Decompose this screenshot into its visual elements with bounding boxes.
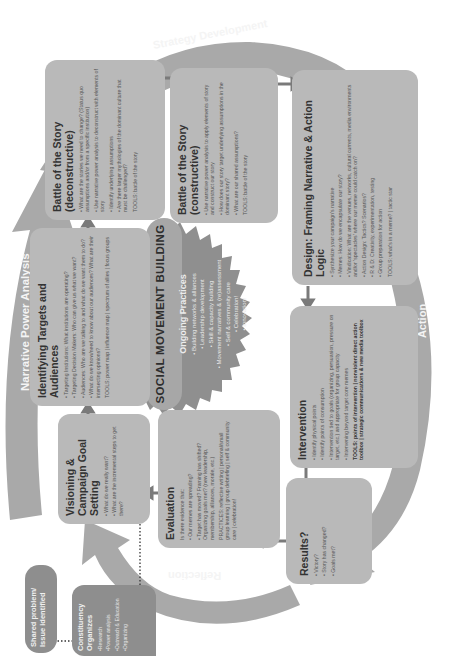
evaluation-item: Our memes are spreading? (187, 418, 193, 540)
battle-con-title: Battle of the Story (constructive) (176, 76, 200, 215)
arc-label-reflection: Reflection (168, 570, 221, 582)
design-item: Vindication: What are the venues, networ… (346, 78, 359, 277)
results-title: Results? (298, 486, 310, 576)
center-item: Movement narratives & (re)assessment (216, 218, 222, 410)
center-social-movement-building: SOCIAL MOVEMENT BUILDING Ongoing Practic… (146, 218, 256, 410)
box-visioning: Visioning & Campaign Goal Setting What d… (58, 414, 150, 524)
intervention-item: Identify physical points (311, 314, 317, 460)
intervention-title: Intervention (296, 314, 308, 460)
constituency-item: •Power analysis (105, 590, 111, 651)
visioning-title: Visioning & Campaign Goal Setting (64, 422, 100, 516)
battle-con-item: How does our story target underlying ass… (218, 76, 231, 215)
evaluation-tools: PRACTICES: reflective writing | personal… (218, 418, 237, 540)
constituency-item: •Outreach & Education (114, 590, 120, 651)
identifying-item: Audiences: Who are we talking to and wha… (80, 236, 86, 398)
box-battle-constructive: Battle of the Story (constructive) Use n… (170, 68, 278, 223)
design-item: Group preparation for action (377, 78, 383, 277)
box-evaluation: Evaluation Is there evidence that: Our m… (158, 410, 280, 548)
center-subtitle: Ongoing Practices (178, 218, 188, 410)
intervention-item: Intervening beyond target core memes (343, 314, 349, 460)
box-constituency-organizes: Constituency Organizes •Research •Power … (72, 585, 156, 656)
center-item: Skill & capacity building (208, 218, 214, 410)
evaluation-intro: Is there evidence that: (179, 418, 185, 540)
identifying-tools: TOOLS: power map | influence map | spect… (104, 236, 110, 398)
design-title: Design: Framing Narrative & Action Logic (302, 78, 326, 277)
identifying-item: Targeting Institutions: What institution… (63, 236, 69, 398)
center-item: Leadership development (199, 218, 205, 410)
battle-decon-item: Use narrative power analysis to deconstr… (93, 68, 106, 212)
intervention-item: Identify points of consumption (319, 314, 325, 460)
design-item: Synthesize your campaign's narrative (329, 78, 335, 277)
center-item: Celebration! (233, 218, 239, 410)
visioning-item: What do we really want? (103, 422, 109, 516)
identifying-item: What do we know/need to know about our a… (88, 236, 101, 398)
battle-decon-tools: TOOLS: battle of the story (132, 68, 138, 212)
center-item: Building networks & alliances (191, 218, 197, 410)
box-design-framing: Design: Framing Narrative & Action Logic… (292, 70, 418, 285)
center-title: SOCIAL MOVEMENT BUILDING (154, 218, 166, 410)
center-item: Innovation! (241, 218, 247, 410)
design-item: Action Design: Tactics? Scenarios? (361, 78, 367, 277)
design-tools: TOOLS: what's in a meme? | tactic star (387, 78, 393, 277)
intervention-item: Intervention tied to goals (organizing, … (328, 314, 341, 460)
center-item: Self & community care (225, 218, 231, 410)
results-item: Victory? (313, 486, 319, 576)
evaluation-title: Evaluation (164, 418, 176, 540)
shared-problem-title: Shared problem/ Issue identified (29, 571, 47, 647)
evaluation-item: Target has moved? Framing has shifted? O… (196, 418, 215, 540)
intervention-tools: TOOLS: points of intervention | nonviole… (352, 314, 365, 460)
results-item: Goals met? (330, 486, 336, 576)
identifying-title: Identifying Targets and Audiences (36, 236, 60, 398)
design-item: R & D: Creativity, experimentation, test… (369, 78, 375, 277)
identifying-item: Targeting Decision Makers: Who can give … (71, 236, 77, 398)
constituency-item: •Research (97, 590, 103, 651)
constituency-title: Constituency Organizes (76, 590, 94, 651)
box-shared-problem: Shared problem/ Issue identified (25, 565, 57, 653)
battle-decon-item: Identify underlying assumptions (108, 68, 114, 212)
box-identifying-targets: Identifying Targets and Audiences Target… (30, 228, 150, 406)
battle-con-item: Use narrative power analysis to apply el… (203, 76, 216, 215)
battle-con-item: What are our shared assumptions? (233, 76, 239, 215)
design-item: Memes: How do we encapsulate our story? (337, 78, 343, 277)
box-results: Results? Victory? Story has changed? Goa… (286, 478, 372, 584)
visioning-item: What are the incremental steps to get th… (111, 422, 124, 516)
battle-decon-title: Battle of the Story (deconstructive) (51, 68, 75, 212)
box-intervention: Intervention Identify physical points Id… (290, 306, 418, 468)
constituency-item: •Organizing (122, 590, 128, 651)
box-battle-deconstructive: Battle of the Story (deconstructive) Wha… (45, 60, 165, 220)
battle-decon-item: What are the stories we need to change? … (78, 68, 91, 212)
battle-con-tools: TOOLS: battle of the story (242, 76, 248, 215)
results-item: Story has changed? (321, 486, 327, 576)
battle-decon-item: Are there larger mythologies of the domi… (116, 68, 129, 212)
